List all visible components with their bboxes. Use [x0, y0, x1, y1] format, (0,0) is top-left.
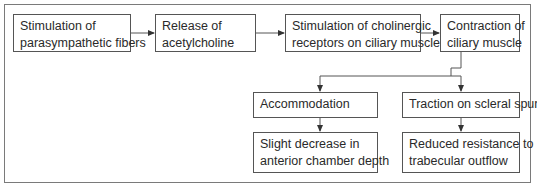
box-contraction-ciliary: Contraction of ciliary muscle — [440, 14, 520, 52]
box-text: anterior chamber depth — [260, 153, 371, 170]
box-text: Release of — [162, 18, 249, 35]
box-text: ciliary muscle — [447, 35, 513, 52]
box-traction-scleral-spur: Traction on scleral spur — [402, 92, 520, 118]
box-text: Accommodation — [260, 96, 371, 113]
box-stimulation-cholinergic: Stimulation of cholinergic receptors on … — [285, 14, 421, 52]
box-text: Stimulation of cholinergic — [292, 18, 414, 35]
box-text: Contraction of — [447, 18, 513, 35]
box-anterior-chamber-depth: Slight decrease in anterior chamber dept… — [253, 132, 378, 173]
box-reduced-resistance: Reduced resistance to trabecular outflow — [402, 132, 520, 173]
box-accommodation: Accommodation — [253, 92, 378, 118]
box-text: receptors on ciliary muscle — [292, 35, 414, 52]
box-text: Traction on scleral spur — [409, 96, 513, 113]
box-text: acetylcholine — [162, 35, 249, 52]
box-release-acetylcholine: Release of acetylcholine — [155, 14, 256, 52]
box-stimulation-parasympathetic: Stimulation of parasympathetic fibers — [13, 14, 131, 52]
box-text: parasympathetic fibers — [20, 35, 124, 52]
box-text: Stimulation of — [20, 18, 124, 35]
box-text: Slight decrease in — [260, 136, 371, 153]
box-text: trabecular outflow — [409, 153, 513, 170]
box-text: Reduced resistance to — [409, 136, 513, 153]
